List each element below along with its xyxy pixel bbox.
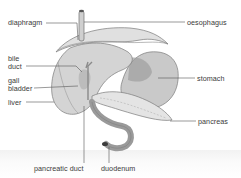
label-gall-bladder-2: bladder: [8, 85, 32, 93]
label-bile-duct-2: duct: [8, 63, 22, 71]
label-pancreas: pancreas: [198, 118, 228, 126]
digestive-diagram: diaphragm oesophagus bile duct gall blad…: [0, 0, 241, 178]
label-pancreatic-duct: pancreatic duct: [34, 165, 84, 173]
label-liver: liver: [8, 99, 21, 107]
oesophagus: [79, 11, 84, 41]
label-oesophagus: oesophagus: [187, 19, 227, 27]
label-diaphragm: diaphragm: [8, 19, 42, 27]
label-stomach: stomach: [197, 75, 225, 83]
label-duodenum: duodenum: [101, 165, 135, 173]
